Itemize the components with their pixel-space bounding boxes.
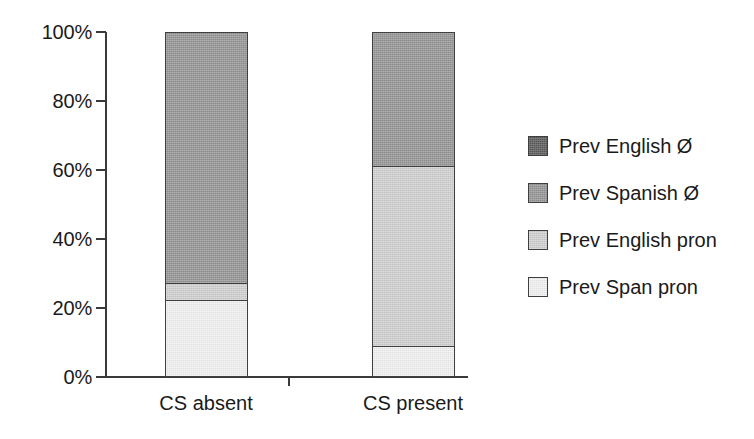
legend-swatch-icon bbox=[528, 277, 548, 297]
y-tick-label-20: 20% bbox=[0, 298, 92, 318]
y-tick-mark-60 bbox=[96, 169, 106, 171]
y-tick-mark-20 bbox=[96, 307, 106, 309]
legend-swatch-icon bbox=[528, 183, 548, 203]
y-tick-mark-100 bbox=[96, 31, 106, 33]
legend-swatch-icon bbox=[528, 230, 548, 250]
y-tick-label-text: 0% bbox=[4, 367, 92, 387]
y-tick-label-60: 60% bbox=[0, 160, 92, 180]
x-tick-label-cs-absent: CS absent bbox=[131, 392, 281, 414]
legend-item-label: Prev English Ø bbox=[559, 135, 692, 157]
x-tick-mark-middle bbox=[288, 377, 290, 386]
legend-item-label: Prev English pron bbox=[559, 229, 717, 251]
y-tick-label-0: 0% bbox=[0, 367, 92, 387]
x-tick-label-cs-present: CS present bbox=[338, 392, 488, 414]
stacked-bar-chart: 100% 80% 60% 40% 20% 0% CS absent CS pre… bbox=[0, 0, 754, 439]
legend-item-prev-spanish-zero: Prev Spanish Ø bbox=[528, 169, 717, 216]
y-tick-label-text: 60% bbox=[4, 160, 92, 180]
bar-segment-prev-span-pron bbox=[372, 346, 455, 377]
legend-item-prev-english-zero: Prev English Ø bbox=[528, 122, 717, 169]
legend-item-prev-english-pron: Prev English pron bbox=[528, 216, 717, 263]
y-tick-label-text: 80% bbox=[4, 91, 92, 111]
y-tick-label-text: 20% bbox=[4, 298, 92, 318]
bar-segment-prev-english-pron bbox=[372, 166, 455, 347]
y-tick-mark-80 bbox=[96, 100, 106, 102]
legend-item-prev-span-pron: Prev Span pron bbox=[528, 263, 717, 310]
y-tick-label-100: 100% bbox=[0, 22, 92, 42]
bar-cs-present bbox=[372, 32, 455, 377]
legend-swatch-icon bbox=[528, 136, 548, 156]
bar-segment-prev-spanish-zero bbox=[165, 32, 248, 284]
legend-item-label: Prev Spanish Ø bbox=[559, 182, 699, 204]
legend-item-label: Prev Span pron bbox=[559, 276, 698, 298]
bar-cs-absent bbox=[165, 32, 248, 377]
bar-segment-prev-spanish-zero bbox=[372, 32, 455, 167]
y-tick-mark-40 bbox=[96, 238, 106, 240]
y-tick-label-40: 40% bbox=[0, 229, 92, 249]
chart-legend: Prev English Ø Prev Spanish Ø Prev Engli… bbox=[528, 122, 717, 310]
y-axis-line bbox=[105, 32, 107, 378]
y-tick-label-text: 100% bbox=[4, 22, 92, 42]
bar-segment-prev-english-pron bbox=[165, 283, 248, 301]
y-tick-label-text: 40% bbox=[4, 229, 92, 249]
y-tick-label-80: 80% bbox=[0, 91, 92, 111]
bar-segment-prev-span-pron bbox=[165, 300, 248, 377]
